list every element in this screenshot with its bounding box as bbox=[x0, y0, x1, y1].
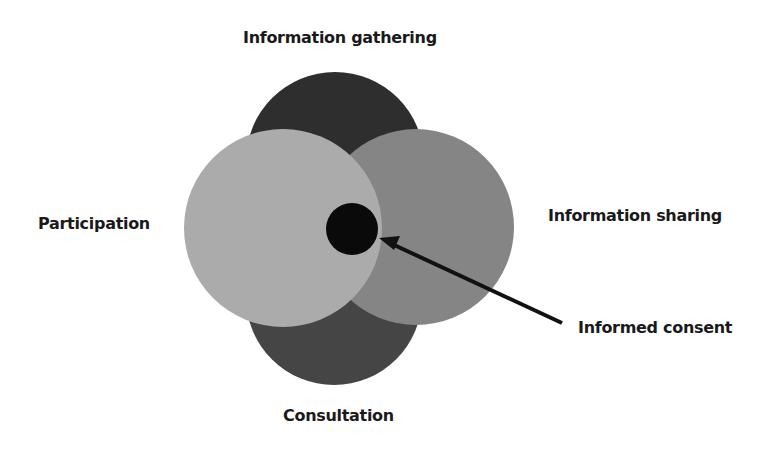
label-information-gathering: Information gathering bbox=[243, 28, 437, 48]
label-informed-consent: Informed consent bbox=[578, 318, 732, 338]
label-consultation: Consultation bbox=[283, 406, 394, 426]
informed-consent-circle bbox=[326, 203, 378, 255]
label-participation: Participation bbox=[38, 214, 150, 234]
label-information-sharing: Information sharing bbox=[548, 206, 722, 226]
